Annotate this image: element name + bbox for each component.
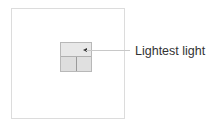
grid-cell-bottom-right [77,57,91,71]
tone-grid [60,42,92,72]
leader-line [86,50,130,51]
grid-cell-bottom-left [61,57,77,71]
callout-label: Lightest light [135,44,205,58]
